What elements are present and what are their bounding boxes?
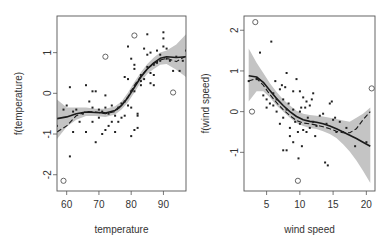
residual-point: [146, 66, 148, 68]
residual-point: [248, 80, 250, 82]
residual-point: [306, 131, 308, 133]
residual-point: [272, 105, 274, 107]
residual-point: [365, 141, 367, 143]
residual-point: [150, 72, 152, 74]
residual-point: [289, 135, 291, 137]
residual-point: [101, 111, 103, 113]
x-tick-label: 15: [328, 199, 340, 210]
plot-frame: [244, 16, 375, 191]
x-tick-label: 10: [294, 199, 306, 210]
residual-point: [153, 84, 155, 86]
x-tick-label: 60: [61, 199, 73, 210]
residual-point: [92, 107, 94, 109]
residual-point: [302, 129, 304, 131]
x-tick-label: 90: [158, 199, 170, 210]
residual-point: [292, 109, 294, 111]
residual-point: [133, 90, 135, 92]
residual-point: [286, 72, 288, 74]
outlier-point: [132, 33, 137, 38]
residual-point: [133, 68, 135, 70]
residual-point: [130, 90, 132, 92]
residual-point: [137, 127, 139, 129]
residual-point: [98, 117, 100, 119]
confidence-band: [57, 34, 186, 139]
y-axis-label: f(temperature): [13, 72, 24, 135]
residual-point: [281, 84, 283, 86]
residual-point: [95, 141, 97, 143]
residual-point: [111, 121, 113, 123]
residual-point: [166, 58, 168, 60]
residual-point: [159, 60, 161, 62]
residual-point: [79, 121, 81, 123]
residual-point: [284, 86, 286, 88]
outlier-point: [171, 90, 176, 95]
y-tick-label: 0: [42, 90, 53, 96]
residual-point: [75, 109, 77, 111]
y-tick-label: 0: [229, 108, 240, 114]
residual-point: [156, 50, 158, 52]
residual-point: [153, 74, 155, 76]
residual-point: [266, 107, 268, 109]
residual-point: [259, 52, 261, 54]
residual-point: [175, 56, 177, 58]
y-tick-label: -2: [42, 170, 53, 179]
residual-point: [299, 90, 301, 92]
residual-point: [156, 62, 158, 64]
residual-point: [286, 149, 288, 151]
residual-point: [326, 123, 328, 125]
residual-point: [117, 107, 119, 109]
residual-point: [309, 127, 311, 129]
x-tick-label: 5: [264, 199, 270, 210]
residual-point: [85, 84, 87, 86]
figure: 60708090-2-101temperaturef(temperature) …: [0, 0, 387, 249]
outlier-point: [61, 178, 66, 183]
plot-area: [248, 20, 375, 184]
x-axis-label: wind speed: [283, 224, 335, 235]
smooth-fit-line: [249, 76, 371, 146]
residual-point: [306, 101, 308, 103]
residual-point: [262, 94, 264, 96]
y-tick-label: -1: [42, 129, 53, 138]
residual-point: [329, 103, 331, 105]
residual-point: [256, 78, 258, 80]
residual-point: [311, 98, 313, 100]
outlier-point: [249, 109, 254, 114]
residual-point: [172, 70, 174, 72]
outlier-point: [253, 20, 258, 25]
residual-point: [327, 164, 329, 166]
residual-point: [307, 117, 309, 119]
residual-point: [111, 105, 113, 107]
plot-area: [56, 31, 187, 183]
residual-point: [104, 107, 106, 109]
residual-point: [331, 101, 333, 103]
residual-point: [276, 111, 278, 113]
residual-point: [92, 121, 94, 123]
residual-point: [133, 129, 135, 131]
y-axis-label: f(wind speed): [200, 73, 211, 133]
residual-point: [153, 64, 155, 66]
y-tick-label: 1: [42, 49, 53, 55]
residual-point: [298, 157, 300, 159]
residual-point: [104, 94, 106, 96]
residual-point: [292, 141, 294, 143]
residual-point: [143, 78, 145, 80]
panel-wind-speed: 5101520-1012wind speedf(wind speed): [200, 16, 375, 235]
residual-point: [137, 113, 139, 115]
y-tick-label: -1: [229, 147, 240, 156]
residual-point: [127, 105, 129, 107]
residual-point: [72, 131, 74, 133]
residual-point: [150, 52, 152, 54]
residual-point: [137, 115, 139, 117]
residual-point: [289, 127, 291, 129]
residual-point: [114, 115, 116, 117]
residual-point: [339, 121, 341, 123]
residual-point: [146, 54, 148, 56]
y-tick-label: 1: [229, 68, 240, 74]
outlier-point: [369, 86, 374, 91]
residual-point: [296, 78, 298, 80]
residual-point: [304, 107, 306, 109]
residual-point: [150, 82, 152, 84]
residual-point: [159, 54, 161, 56]
residual-point: [140, 80, 142, 82]
residual-point: [274, 80, 276, 82]
